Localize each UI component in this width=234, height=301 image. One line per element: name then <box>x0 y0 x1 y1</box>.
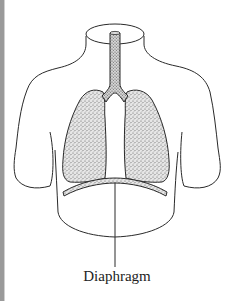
right-lung <box>124 90 169 182</box>
left-lung <box>63 90 106 182</box>
torso-diagram <box>0 0 234 301</box>
left-inner-arm <box>50 132 53 186</box>
right-inner-arm <box>181 132 184 186</box>
diaphragm-label: Diaphragm <box>0 268 234 285</box>
